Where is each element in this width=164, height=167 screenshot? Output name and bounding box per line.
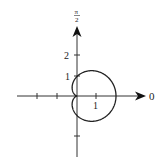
pi-denominator: 2 — [75, 16, 79, 24]
polar-axis-label: 0 — [149, 90, 155, 102]
pi-numerator: π — [75, 8, 79, 16]
y-tick-label-1: 1 — [65, 71, 70, 82]
polar-plot: 0 π 2 1 1 2 — [0, 0, 164, 167]
y-tick-label-2: 2 — [64, 50, 69, 61]
x-tick-label-1: 1 — [93, 100, 98, 111]
